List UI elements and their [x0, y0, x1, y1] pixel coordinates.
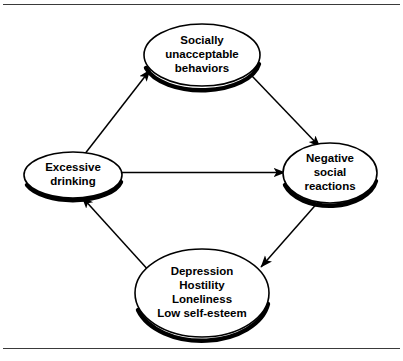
diagram-figure: Socially unacceptable behaviors Negative… — [0, 0, 403, 361]
node-label-line1: Depression — [171, 265, 234, 277]
node-socially-unacceptable-behaviors: Socially unacceptable behaviors — [144, 24, 260, 90]
node-label-line2: Hostility — [179, 279, 225, 291]
node-depression-hostility-loneliness-low-self-esteem: Depression Hostility Loneliness Low self… — [135, 249, 269, 341]
edge-behaviors-to-reactions — [252, 76, 320, 147]
edge-drinking-to-behaviors — [84, 70, 150, 155]
node-excessive-drinking: Excessive drinking — [24, 152, 122, 200]
node-label-line1: Excessive — [45, 161, 101, 173]
node-label-line4: Low self-esteem — [157, 307, 246, 319]
node-label-line2: unacceptable — [165, 48, 239, 60]
node-negative-social-reactions: Negative social reactions — [283, 143, 377, 206]
diagram-canvas: Socially unacceptable behaviors Negative… — [0, 0, 403, 361]
node-label-line2: drinking — [50, 175, 95, 187]
node-label-line3: Loneliness — [172, 293, 232, 305]
node-label-line1: Negative — [306, 152, 354, 164]
node-label-line2: social — [314, 166, 347, 178]
node-label-line1: Socially — [180, 34, 224, 46]
edge-reactions-to-feelings — [261, 200, 320, 267]
edge-feelings-to-drinking — [82, 197, 150, 272]
node-label-line3: behaviors — [175, 62, 229, 74]
node-label-line3: reactions — [304, 180, 355, 192]
